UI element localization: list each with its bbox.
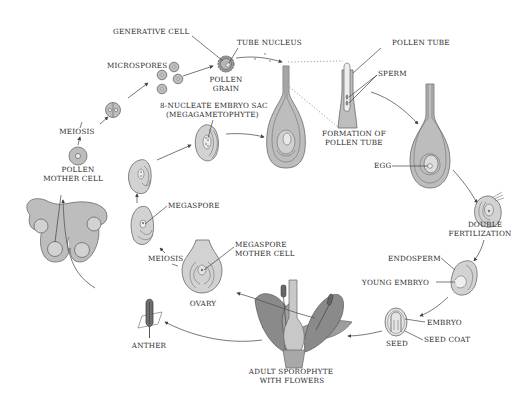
label-ovary: OVARY — [190, 299, 217, 308]
label-megaspore-mother-2: MOTHER CELL — [235, 249, 295, 258]
label-sperm: SPERM — [378, 69, 407, 78]
ovary — [182, 240, 222, 293]
label-pollen-mother-cell-2: MOTHER CELL — [43, 174, 103, 183]
label-embryo-sac-1: 8-NUCLEATE EMBRYO SAC — [160, 101, 268, 110]
label-egg: EGG — [374, 161, 391, 170]
label-embryo: EMBRYO — [427, 318, 462, 327]
megaspore-ovule — [131, 206, 154, 244]
label-anther: ANTHER — [131, 341, 167, 350]
anther-stamen — [138, 299, 162, 338]
ovule-pistil-receiving-pollen — [267, 66, 306, 168]
label-endosperm: ENDOSPERM — [388, 254, 441, 263]
label-generative-cell: GENERATIVE CELL — [113, 27, 189, 36]
seed — [385, 308, 407, 336]
label-adult-sporophyte-2: WITH FLOWERS — [260, 376, 325, 385]
pollen-mother-cell — [69, 147, 87, 165]
dyad-cell — [106, 103, 121, 118]
developing-ovule — [128, 160, 151, 194]
embryo-sac-ovule — [195, 125, 218, 161]
label-pollen-tube: POLLEN TUBE — [392, 38, 450, 47]
label-pollen-grain-1: POLLEN — [209, 75, 242, 84]
label-megaspore: MEGASPORE — [168, 201, 220, 210]
label-double-fert-2: FERTILIZATION — [449, 229, 512, 238]
label-meiosis-female: MEIOSIS — [148, 254, 183, 263]
label-embryo-sac-2: (MEGAGAMETOPHYTE) — [166, 110, 259, 119]
label-meiosis-male: MEIOSIS — [59, 127, 94, 136]
adult-sporophyte-flower — [255, 280, 352, 368]
label-seed-coat: SEED COAT — [424, 335, 470, 344]
label-pollen-mother-cell-1: POLLEN — [61, 165, 94, 174]
pollen-tube-formation — [338, 63, 357, 128]
label-double-fert-1: DOUBLE — [468, 220, 502, 229]
label-formation-2: POLLEN TUBE — [325, 138, 383, 147]
ovule-with-egg — [410, 84, 450, 188]
label-microspores: MICROSPORES — [107, 61, 167, 70]
label-pollen-grain-2: GRAIN — [213, 84, 239, 93]
angiosperm-life-cycle-diagram: POLLEN MOTHER CELL MEIOSIS MICROSPORES G… — [0, 0, 523, 401]
label-seed: SEED — [386, 339, 408, 348]
label-adult-sporophyte-1: ADULT SPOROPHYTE — [248, 367, 333, 376]
label-young-embryo: YOUNG EMBRYO — [361, 278, 429, 287]
label-tube-nucleus: TUBE NUCLEUS — [237, 38, 302, 47]
label-formation-1: FORMATION OF — [322, 129, 386, 138]
label-megaspore-mother-1: MEGASPORE — [235, 240, 287, 249]
developing-seed — [451, 261, 477, 295]
anther-cross-section — [27, 199, 107, 262]
